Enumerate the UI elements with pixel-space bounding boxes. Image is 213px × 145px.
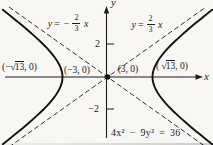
x-axis-arrow xyxy=(196,74,204,79)
focus-right-post: , 0) xyxy=(175,61,188,71)
vertex-right-label: (3, 0) xyxy=(112,64,144,75)
asym-left-x: x xyxy=(84,18,88,29)
scan-edge-shadow xyxy=(0,143,213,145)
origin-point xyxy=(105,74,111,80)
asymptote-positive-label: y=23 x xyxy=(121,15,173,34)
focus-right-label: ( √13, 0) xyxy=(156,61,188,72)
asym-left-y: y xyxy=(48,18,52,29)
asym-left-fraction: 23 xyxy=(72,14,80,33)
asym-right-denominator: 3 xyxy=(147,25,155,34)
asym-left-sign: − xyxy=(64,18,70,29)
focus-left-post: , 0) xyxy=(24,62,37,72)
asym-left-denominator: 3 xyxy=(72,24,80,33)
hyperbola-equation: 4x² − 9y² = 36 xyxy=(111,127,180,138)
focus-left-label: (−√13, 0) xyxy=(2,62,37,73)
y-axis-label: y xyxy=(111,0,116,8)
vertex-left-label: (−3, 0) xyxy=(58,65,96,76)
asym-right-x: x xyxy=(158,19,162,30)
x-axis-label: x xyxy=(204,71,209,82)
asym-left-equals: = xyxy=(54,18,60,29)
y-axis-arrow xyxy=(104,6,109,14)
asym-right-numerator: 2 xyxy=(147,15,155,25)
y-tick-label-negative: −2 xyxy=(83,103,99,114)
asymptote-negative-label: y=−23 x xyxy=(38,14,98,33)
asym-right-y: y xyxy=(131,19,135,30)
y-tick-label-positive: 2 xyxy=(89,38,100,49)
focus-left-pre: (− xyxy=(2,62,11,72)
asym-right-equals: = xyxy=(138,19,144,30)
asym-left-numerator: 2 xyxy=(72,14,80,24)
focus-right-radicand: 13 xyxy=(166,60,176,71)
asym-right-fraction: 23 xyxy=(147,15,155,34)
hyperbola-figure: y=−23 x y=23 x y x 2 −2 (−√13, 0) (−3, 0… xyxy=(0,0,213,145)
focus-right-pre: ( xyxy=(156,61,162,71)
focus-left-radicand: 13 xyxy=(15,61,25,72)
